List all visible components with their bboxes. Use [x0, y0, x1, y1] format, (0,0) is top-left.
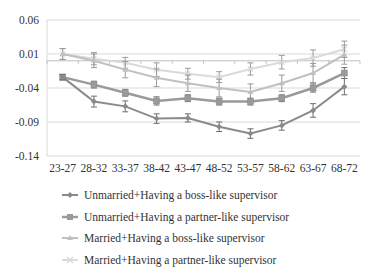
- data-series: [60, 41, 348, 138]
- y-tick-label: -0.04: [15, 82, 39, 94]
- legend-cross-marker-icon: [40, 254, 84, 266]
- legend-item-unmarried-partner: Unmarried+Having a partner-like supervis…: [40, 206, 289, 228]
- x-tick-label: 68-72: [331, 162, 358, 174]
- legend-label: Married+Having a partner-like supervisor: [84, 254, 276, 266]
- legend-item-unmarried-boss: Unmarried+Having a boss-like supervisor: [40, 184, 289, 206]
- legend-label: Married+Having a boss-like supervisor: [84, 232, 265, 244]
- legend-diamond-marker-icon: [40, 189, 84, 201]
- y-tick-label: -0.14: [15, 150, 39, 162]
- x-tick-label: 48-52: [206, 162, 233, 174]
- y-axis: 0.060.01-0.04-0.09-0.14: [15, 14, 39, 162]
- legend-item-married-boss: Married+Having a boss-like supervisor: [40, 227, 289, 249]
- x-tick-label: 53-57: [237, 162, 264, 174]
- x-tick-label: 33-37: [112, 162, 139, 174]
- x-tick-label: 43-47: [174, 162, 201, 174]
- legend-item-married-partner: Married+Having a partner-like supervisor: [40, 249, 289, 271]
- legend-label: Unmarried+Having a boss-like supervisor: [84, 189, 277, 201]
- x-tick-label: 38-42: [143, 162, 170, 174]
- legend-label: Unmarried+Having a partner-like supervis…: [84, 211, 289, 223]
- y-tick-label: 0.01: [19, 48, 39, 60]
- legend-triangle-marker-icon: [40, 232, 84, 244]
- y-tick-label: -0.09: [15, 116, 39, 128]
- x-tick-label: 23-27: [49, 162, 76, 174]
- legend: Unmarried+Having a boss-like supervisor …: [40, 184, 289, 271]
- y-tick-label: 0.06: [19, 14, 39, 26]
- x-tick-label: 63-67: [300, 162, 327, 174]
- series-0: [60, 74, 348, 138]
- x-tick-label: 58-62: [268, 162, 295, 174]
- x-tick-label: 28-32: [81, 162, 108, 174]
- legend-square-marker-icon: [40, 211, 84, 223]
